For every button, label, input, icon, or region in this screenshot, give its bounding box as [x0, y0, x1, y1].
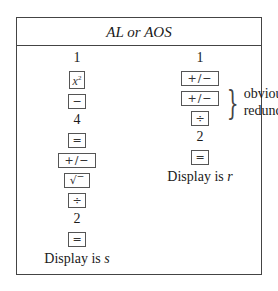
equals-key-icon: =	[68, 232, 85, 247]
annotation-line: obviously	[244, 85, 278, 102]
x-squared-key-icon: x2	[69, 71, 86, 89]
change-sign-key-icon: +/−	[58, 153, 95, 168]
equals-key-icon: =	[68, 133, 85, 148]
brace-icon: }	[227, 85, 239, 119]
divide-key-icon: ÷	[68, 193, 85, 208]
annotation-line: redundant	[244, 102, 278, 119]
keystroke-table: AL or AOS 1 x2 − 4 = +/− √‾ ÷ 2 = Displa…	[16, 17, 262, 275]
right-column: 1 +/− +/− ÷ 2 = Display is r } obviously…	[135, 47, 265, 184]
equals-key-icon: =	[191, 150, 208, 165]
step-number: 1	[197, 51, 204, 66]
square-root-key-icon: √‾	[64, 173, 91, 188]
step-number: 2	[197, 130, 204, 145]
divide-key-icon: ÷	[191, 111, 208, 126]
redundancy-annotation: } obviously redundant	[222, 85, 278, 119]
step-number: 1	[74, 51, 81, 66]
change-sign-key-icon: +/−	[181, 91, 218, 106]
step-number: 2	[74, 212, 81, 227]
step-number: 4	[74, 113, 81, 128]
minus-key-icon: −	[68, 94, 85, 109]
change-sign-key-icon: +/−	[181, 71, 218, 86]
display-result: Display is s	[44, 251, 109, 266]
left-column: 1 x2 − 4 = +/− √‾ ÷ 2 = Display is s	[17, 47, 137, 266]
display-result: Display is r	[167, 169, 232, 184]
table-header: AL or AOS	[17, 18, 261, 46]
